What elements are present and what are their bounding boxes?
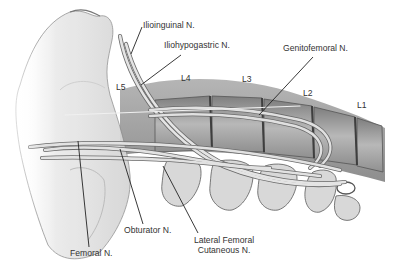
label-lateral-femoral-line2: Cutaneous N.	[176, 246, 272, 256]
label-iliohypogastric-nerve: Iliohypogastric N.	[164, 41, 230, 51]
label-femoral-nerve: Femoral N.	[70, 249, 113, 259]
vertebra-label-l5: L5	[116, 82, 126, 92]
vertebra-label-l1: L1	[357, 100, 367, 110]
label-lateral-femoral-cutaneous-nerve: Lateral Femoral Cutaneous N.	[176, 236, 272, 256]
leader-ilioinguinal	[131, 27, 142, 54]
label-ilioinguinal-nerve: Ilioinguinal N.	[143, 21, 195, 31]
vertebra-l3	[212, 96, 264, 152]
vertebra-label-l3: L3	[242, 74, 252, 84]
label-genitofemoral-nerve: Genitofemoral N.	[283, 44, 348, 54]
vertebra-label-l2: L2	[303, 88, 313, 98]
vertebra-t12	[357, 118, 383, 172]
vertebra-label-l4: L4	[181, 73, 191, 83]
label-obturator-nerve: Obturator N.	[124, 226, 171, 236]
